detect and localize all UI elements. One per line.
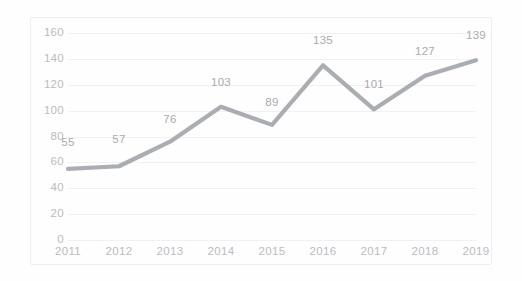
x-axis-tick-label: 2014: [208, 246, 235, 258]
x-axis-tick-label: 2018: [412, 246, 439, 258]
data-point-label: 139: [466, 30, 486, 42]
data-point-label: 101: [364, 80, 384, 92]
x-axis-tick-label: 2013: [157, 246, 184, 258]
x-axis-tick-label: 2015: [259, 246, 286, 258]
y-axis-tick-label: 120: [34, 79, 64, 91]
y-axis-tick-label: 20: [34, 208, 64, 220]
y-axis-tick-label: 40: [34, 183, 64, 195]
data-point-label: 103: [211, 77, 231, 89]
data-point-label: 57: [112, 135, 125, 147]
plot-area: 55577610389135101127139: [68, 33, 476, 240]
y-axis-tick-label: 80: [34, 131, 64, 143]
x-axis-tick-label: 2012: [106, 246, 133, 258]
chart-figure: 55577610389135101127139 0204060801001201…: [0, 0, 522, 281]
data-point-label: 89: [265, 97, 278, 109]
x-axis-tick-label: 2016: [310, 246, 337, 258]
y-axis-tick-label: 100: [34, 105, 64, 117]
gridline: [68, 240, 476, 241]
x-axis-tick-label: 2017: [361, 246, 388, 258]
data-point-label: 135: [313, 36, 333, 48]
x-axis-tick-label: 2019: [463, 246, 490, 258]
x-axis-tick-label: 2011: [55, 246, 81, 258]
line-series-svg: [68, 33, 476, 240]
y-axis: 020406080100120140160: [30, 33, 64, 240]
y-axis-tick-label: 60: [34, 157, 64, 169]
line-series-path: [68, 60, 476, 169]
y-axis-tick-label: 160: [34, 27, 64, 39]
data-point-label: 127: [415, 46, 435, 58]
y-axis-tick-label: 140: [34, 53, 64, 65]
x-axis: 201120122013201420152016201720182019: [68, 246, 476, 266]
data-point-label: 76: [163, 114, 176, 126]
